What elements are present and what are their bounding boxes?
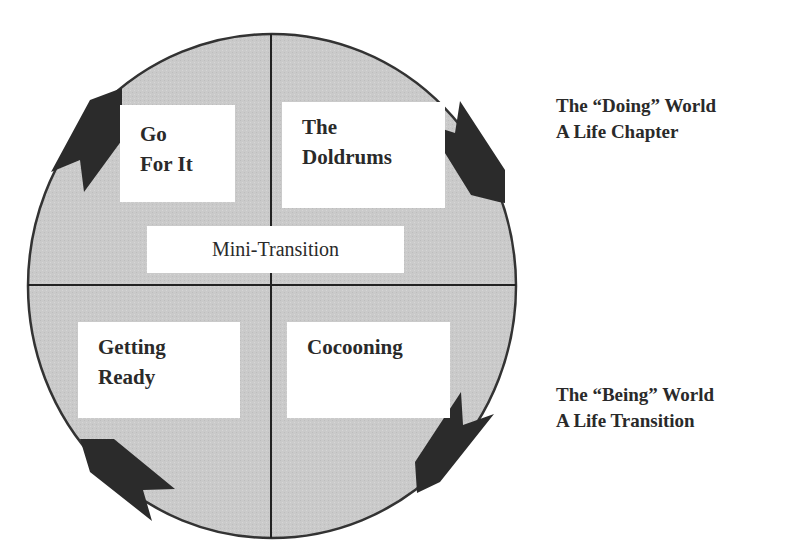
quadrant-go-for-it: Go For It (120, 105, 235, 202)
mini-transition-label: Mini-Transition (147, 226, 404, 273)
side-label-line: The “Doing” World (556, 93, 716, 119)
quadrant-cocooning: Cocooning (287, 322, 450, 418)
quadrant-label-line: Getting (98, 332, 240, 362)
quadrant-label-line: Ready (98, 362, 240, 392)
quadrant-the-doldrums: The Doldrums (282, 102, 445, 208)
cycle-diagram (0, 0, 810, 558)
side-label-line: A Life Chapter (556, 119, 716, 145)
side-label-line: A Life Transition (556, 408, 714, 434)
doing-world-label: The “Doing” World A Life Chapter (556, 93, 716, 145)
side-label-line: The “Being” World (556, 382, 714, 408)
quadrant-label-line: Go (140, 119, 235, 149)
quadrant-label-line: Doldrums (302, 142, 445, 172)
quadrant-label-line: For It (140, 149, 235, 179)
quadrant-label-line: Cocooning (307, 332, 450, 362)
quadrant-label-line: The (302, 112, 445, 142)
quadrant-getting-ready: Getting Ready (78, 322, 240, 418)
being-world-label: The “Being” World A Life Transition (556, 382, 714, 434)
